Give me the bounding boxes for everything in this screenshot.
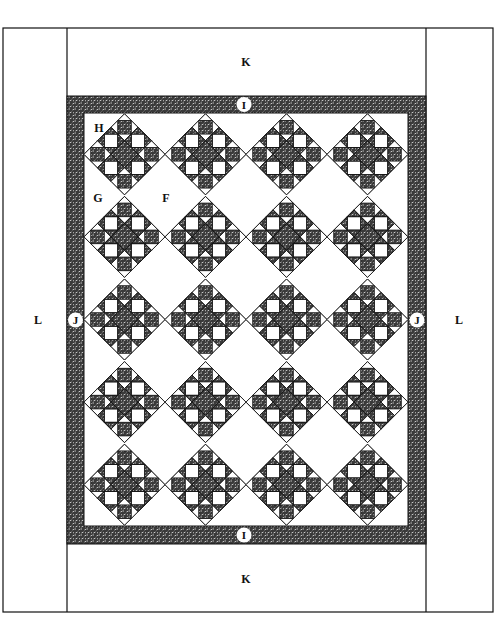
label-k-top: K bbox=[241, 55, 251, 69]
label-j-right: J bbox=[410, 313, 425, 328]
label-h-block: H bbox=[94, 121, 104, 135]
label-i-top: I bbox=[237, 97, 252, 112]
quilt-diagram: I I J J K K L L H G F bbox=[0, 0, 500, 629]
svg-text:I: I bbox=[242, 99, 246, 111]
svg-text:J: J bbox=[414, 314, 420, 326]
label-l-right: L bbox=[455, 313, 463, 327]
label-g-side-triangle: G bbox=[93, 191, 102, 205]
label-i-bottom: I bbox=[237, 528, 252, 543]
svg-text:J: J bbox=[73, 314, 79, 326]
label-l-left: L bbox=[34, 313, 42, 327]
label-f-setting-square: F bbox=[162, 191, 169, 205]
svg-text:I: I bbox=[242, 529, 246, 541]
label-k-bottom: K bbox=[241, 572, 251, 586]
label-j-left: J bbox=[68, 313, 83, 328]
